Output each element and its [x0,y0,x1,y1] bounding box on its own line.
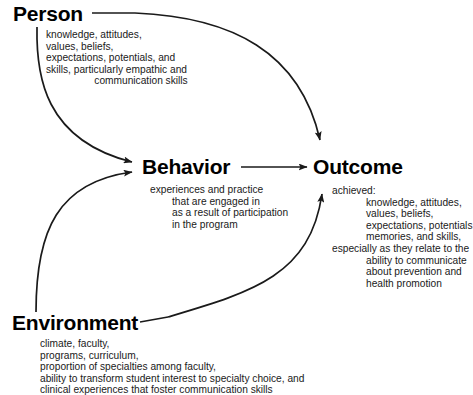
node-label-environment[interactable]: Environment [12,312,138,333]
description-environment-line-1: climate, faculty, [40,338,370,350]
description-environment-line-3: proportion of specialties among faculty, [40,361,370,373]
description-outcome-line-7: ability to communicate [332,255,472,267]
description-behavior-line-1: experiences and practice [150,184,310,196]
description-outcome-line-8: about prevention and [332,266,472,278]
description-outcome-line-9: health promotion [332,278,472,290]
description-person-line-5: communication skills [46,75,236,87]
description-person-line-2: values, beliefs, [46,41,236,53]
edge-environment-to-behavior [36,172,132,312]
description-person-line-3: expectations, potentials, and [46,52,236,64]
description-environment-line-2: programs, curriculum, [40,350,370,362]
description-environment-line-5: clinical experiences that foster communi… [40,384,370,395]
description-outcome-line-5: memories, and skills, [332,231,472,243]
description-person-line-1: knowledge, attitudes, [46,29,236,41]
description-behavior-line-4: in the program [150,219,310,231]
description-outcome-line-6: especially as they relate to the [332,243,472,255]
node-label-person[interactable]: Person [13,3,83,24]
environment-connector-stub [140,317,168,322]
description-behavior-line-2: that are engaged in [150,196,310,208]
diagram-canvas: Person knowledge, attitudes, values, bel… [0,0,473,395]
description-environment: climate, faculty, programs, curriculum, … [40,338,370,395]
description-outcome-line-4: expectations, potentials, [332,220,472,232]
node-label-outcome[interactable]: Outcome [313,156,403,177]
description-person-line-4: skills, particularly empathic and [46,64,236,76]
description-outcome: achieved: knowledge, attitudes, values, … [332,185,472,289]
description-person: knowledge, attitudes, values, beliefs, e… [46,29,236,87]
description-outcome-line-2: knowledge, attitudes, [332,197,472,209]
description-behavior: experiences and practice that are engage… [150,184,310,230]
description-outcome-line-1: achieved: [332,185,472,197]
description-behavior-line-3: as a result of participation [150,207,310,219]
description-outcome-line-3: values, beliefs, [332,208,472,220]
node-label-behavior[interactable]: Behavior [142,156,230,177]
description-environment-line-4: ability to transform student interest to… [40,373,370,385]
